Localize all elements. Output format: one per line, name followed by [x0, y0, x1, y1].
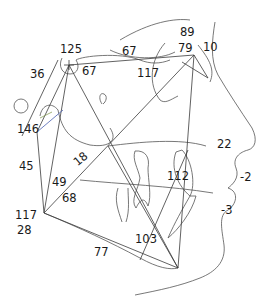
pterygoid-loop [100, 94, 106, 104]
cephalometric-diagram: 125 36 67 67 89 79 10 117 146 22 45 18 1… [0, 0, 267, 305]
measurement-label: 49 [52, 177, 67, 189]
measurement-label: 117 [137, 68, 159, 80]
measurement-label: -2 [240, 172, 251, 184]
n-triangle-b [182, 62, 208, 78]
n-a-line [178, 55, 194, 268]
measurement-label: 103 [135, 234, 157, 246]
measurement-label: 10 [203, 42, 218, 54]
measurement-label: 146 [17, 124, 39, 136]
measurement-label: 77 [94, 247, 109, 259]
s-gn-line [69, 65, 178, 268]
measurement-label: 68 [62, 193, 77, 205]
pns-point-line [108, 146, 178, 268]
forehead-profile [212, 22, 255, 188]
measurement-label: 125 [60, 44, 82, 56]
palatal-plane [108, 141, 206, 146]
ear-rod-circle [14, 99, 28, 113]
measurement-label: -3 [221, 205, 232, 217]
measurement-label: 89 [180, 27, 195, 39]
premolar [116, 188, 128, 222]
condyle-outline [40, 105, 113, 145]
molar-tooth [134, 151, 150, 208]
measurement-label: 22 [217, 139, 232, 151]
measurement-label: 67 [82, 66, 97, 78]
measurement-label: 79 [178, 43, 193, 55]
measurement-label: 36 [30, 69, 45, 81]
measurement-label: 67 [122, 46, 137, 58]
measurement-label: 117 [15, 210, 37, 222]
measurement-label: 28 [17, 225, 32, 237]
measurement-label: 112 [167, 171, 189, 183]
orbit-curve [110, 50, 175, 58]
go-me-line [44, 213, 178, 268]
n-triangle [194, 55, 208, 78]
measurement-label: 45 [19, 161, 34, 173]
ar-go-line [37, 132, 44, 213]
